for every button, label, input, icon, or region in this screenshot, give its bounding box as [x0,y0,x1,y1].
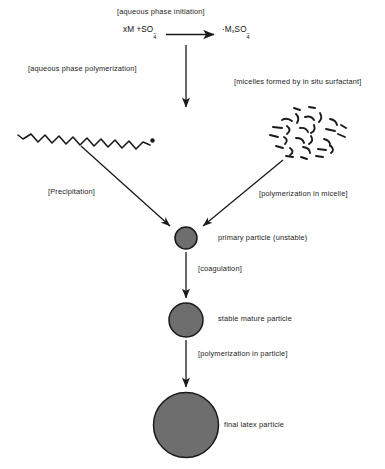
reactant-subscript: 4 [153,34,156,40]
label-polymerization-in-particle: [polymerization in particle] [198,350,288,358]
label-stable-mature-particle: stable mature particle [218,315,292,323]
micelle-cluster [270,107,346,159]
product-subscript: 4 [247,34,250,40]
label-polymerization-in-micelle: [polymerization in micelle] [259,190,348,198]
equation-reactant: xM +SO−4 [123,25,158,34]
label-primary-particle: primary particle (unstable) [218,234,307,242]
primary-particle [175,227,197,249]
radical-dot [150,138,154,142]
equation-product: ·MxSO−4 [222,25,252,34]
arrow-precipitation [81,146,170,226]
stable-mature-particle [169,303,203,337]
final-latex-particle [154,393,219,458]
label-coagulation: [coagulation] [198,265,242,273]
label-aqueous-phase-polymerization: [aqueous phase polymerization] [28,65,137,73]
polymer-chain-zigzag [18,134,155,149]
label-aqueous-phase-initiation: [aqueous phase initiation] [117,8,205,16]
label-final-latex-particle: final latex particle [224,421,284,429]
label-micelles-formed: [micelles formed by in situ surfactant] [234,78,361,86]
label-precipitation: [Precipitation] [48,188,95,196]
